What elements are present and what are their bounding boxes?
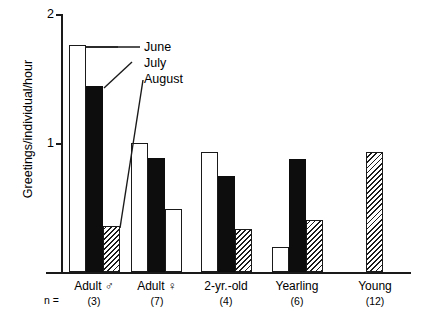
legend-label-july: July: [144, 56, 166, 70]
bar-june-two-yr-old: [201, 152, 218, 272]
bar-july-adult-female: [148, 158, 165, 272]
bar-july-yearling: [289, 159, 306, 272]
bar-july-two-yr-old: [218, 176, 235, 272]
bar-chart-figure: Greetings/individual/hour 2 1 June July …: [0, 0, 425, 319]
bar-june-adult-female: [131, 143, 148, 272]
x-axis-line: [46, 272, 411, 274]
y-tick-label-1: 1: [36, 136, 54, 150]
bar-june-yearling: [272, 247, 289, 272]
bar-august-adult-male: [103, 226, 120, 272]
x-tick-label-young: Young: [315, 279, 425, 293]
sample-size-young: (12): [315, 295, 425, 307]
bar-august-two-yr-old: [235, 229, 252, 272]
legend-label-june: June: [144, 40, 171, 54]
bar-june-adult-male: [69, 45, 86, 272]
bar-august-young: [366, 152, 383, 272]
y-tick-label-2: 2: [36, 7, 54, 21]
legend-label-august: August: [144, 72, 183, 86]
bar-august-yearling: [306, 220, 323, 272]
bar-august-adult-female: [165, 209, 182, 272]
y-axis-line: [61, 14, 63, 273]
y-axis-title: Greetings/individual/hour: [21, 29, 35, 229]
bar-july-adult-male: [86, 86, 103, 272]
